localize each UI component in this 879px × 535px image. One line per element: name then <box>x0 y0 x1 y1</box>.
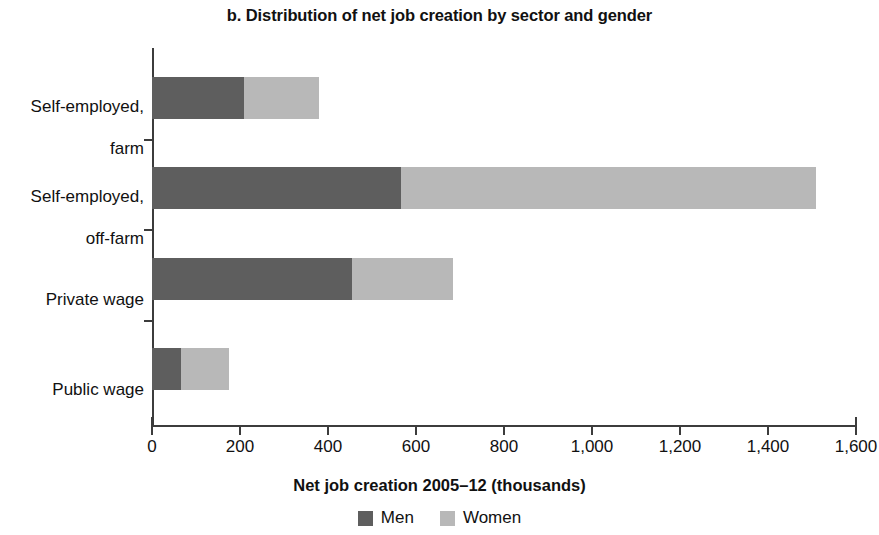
bar-segment-men <box>152 167 401 209</box>
category-label-line2: off-farm <box>86 229 144 248</box>
bar-segment-women <box>181 348 229 390</box>
chart-title: b. Distribution of net job creation by s… <box>0 6 879 25</box>
x-axis-tick <box>855 426 857 435</box>
x-axis-tick-label: 600 <box>402 437 430 457</box>
legend-swatch-men-icon <box>358 511 373 526</box>
y-axis-tick <box>144 320 153 322</box>
legend-swatch-women-icon <box>440 511 455 526</box>
x-axis-tick <box>239 426 241 435</box>
category-label-line1: Self-employed, <box>31 187 144 206</box>
y-axis-label-self-employed-off-farm: Self-employed, off-farm <box>8 165 144 249</box>
y-axis-tick <box>144 229 153 231</box>
x-axis-tick-label: 1,600 <box>835 437 878 457</box>
bar-self-employed-off-farm <box>152 167 856 209</box>
y-axis-label-self-employed-farm: Self-employed, farm <box>8 75 144 159</box>
x-axis-tick-label: 1,000 <box>571 437 614 457</box>
x-axis-tick-label: 200 <box>226 437 254 457</box>
x-axis-tick <box>415 426 417 435</box>
bar-segment-men <box>152 258 352 300</box>
bar-public-wage <box>152 348 856 390</box>
bar-segment-women <box>401 167 817 209</box>
x-axis-tick-label: 1,400 <box>747 437 790 457</box>
category-label-line1: Public wage <box>52 380 144 399</box>
bar-segment-women <box>244 77 319 119</box>
chart-legend: Men Women <box>0 508 879 528</box>
x-axis-tick <box>327 426 329 435</box>
category-label-line1: Self-employed, <box>31 97 144 116</box>
category-label-line1: Private wage <box>46 290 144 309</box>
legend-label-women: Women <box>463 508 521 528</box>
legend-item-men: Men <box>358 508 414 528</box>
bar-segment-women <box>352 258 453 300</box>
x-axis-tick-cap <box>151 417 153 426</box>
x-axis-title: Net job creation 2005–12 (thousands) <box>0 476 879 495</box>
x-axis-tick-label: 800 <box>490 437 518 457</box>
bar-segment-men <box>152 77 244 119</box>
bar-self-employed-farm <box>152 77 856 119</box>
bar-segment-men <box>152 348 181 390</box>
chart-figure: b. Distribution of net job creation by s… <box>0 0 879 535</box>
legend-item-women: Women <box>440 508 521 528</box>
x-axis-tick <box>767 426 769 435</box>
y-axis-label-private-wage: Private wage <box>8 268 144 310</box>
x-axis-tick <box>591 426 593 435</box>
x-axis-tick-cap <box>855 417 857 426</box>
y-axis-tick <box>144 139 153 141</box>
y-axis-label-public-wage: Public wage <box>8 358 144 400</box>
category-label-line2: farm <box>110 139 144 158</box>
legend-label-men: Men <box>381 508 414 528</box>
x-axis-tick <box>151 426 153 435</box>
x-axis-tick-label: 1,200 <box>659 437 702 457</box>
bar-private-wage <box>152 258 856 300</box>
x-axis-tick <box>503 426 505 435</box>
x-axis-tick-label: 0 <box>147 437 156 457</box>
x-axis-tick-label: 400 <box>314 437 342 457</box>
x-axis-tick <box>679 426 681 435</box>
